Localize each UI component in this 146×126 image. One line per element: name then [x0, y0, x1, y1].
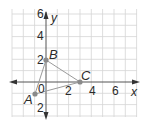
- point-b: [43, 57, 48, 62]
- point-b-label: B: [49, 47, 58, 62]
- y-axis-up-arrow-icon: [44, 11, 49, 19]
- x-tick-2: 2: [65, 84, 72, 98]
- y-axis-label: y: [50, 11, 58, 25]
- x-tick-4: 4: [89, 84, 96, 98]
- x-axis-label: x: [130, 85, 138, 99]
- x-axis-left-arrow-icon: [9, 80, 17, 85]
- y-tick-6: 6: [37, 7, 44, 21]
- y-tick-4: 4: [37, 29, 44, 43]
- y-tick-2: 2: [37, 53, 44, 67]
- point-a-label: A: [23, 92, 33, 107]
- origin-label: 0: [38, 82, 45, 96]
- y-tick-neg-2: 2: [37, 101, 44, 115]
- x-tick-6: 6: [112, 84, 119, 98]
- x-axis-right-arrow-icon: [132, 80, 140, 85]
- point-c-label: C: [81, 68, 91, 83]
- coordinate-plane: A B C y x 0 2 4 6 6 4 2 2: [0, 0, 146, 126]
- point-a: [32, 91, 37, 96]
